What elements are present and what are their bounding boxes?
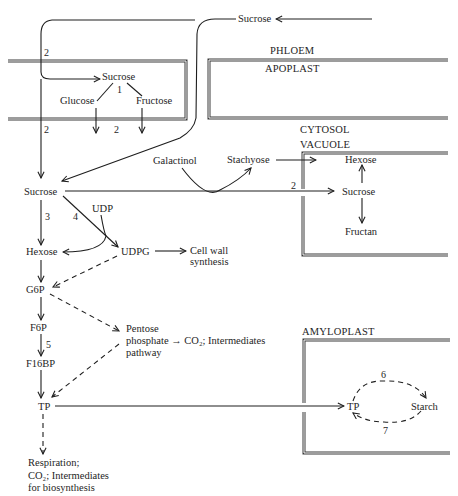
- step-number: 7: [383, 425, 388, 437]
- label-apoplast: APOPLAST: [265, 63, 320, 75]
- node-udp: UDP: [92, 203, 113, 215]
- diagram-canvas: PHLOEM APOPLAST CYTOSOL VACUOLE AMYLOPLA…: [0, 0, 458, 496]
- step-number: 2: [114, 124, 119, 136]
- node-tp-amyloplast: TP: [347, 401, 359, 413]
- node-glucose: Glucose: [60, 95, 94, 107]
- node-hexose-vacuole: Hexose: [345, 154, 377, 166]
- node-pentose-line1: Pentose: [126, 323, 159, 335]
- node-starch: Starch: [411, 401, 438, 413]
- step-number: 6: [381, 369, 386, 381]
- label-vacuole: VACUOLE: [300, 139, 350, 151]
- node-tp-cytosol: TP: [38, 401, 50, 413]
- phloem-membrane-right: [209, 60, 448, 118]
- node-pentose-line3: pathway: [126, 347, 162, 359]
- node-respiration-line3: for biosynthesis: [28, 482, 95, 494]
- vacuole-membrane: [303, 153, 448, 255]
- node-respiration-line1: Respiration;: [28, 457, 79, 469]
- step-number: 2: [291, 180, 296, 192]
- node-sucrose-vacuole: Sucrose: [342, 186, 375, 198]
- node-galactinol: Galactinol: [153, 155, 197, 167]
- node-f16bp: F16BP: [26, 358, 55, 370]
- node-sucrose-apoplast: Sucrose: [102, 71, 135, 83]
- step-number: 2: [44, 124, 49, 136]
- node-respiration-line2: CO₂; Intermediates: [28, 470, 109, 482]
- step-number: 3: [45, 211, 50, 223]
- node-hexose-cytosol: Hexose: [26, 246, 58, 258]
- node-sucrose-cytosol: Sucrose: [24, 186, 57, 198]
- node-cell-wall-line2: synthesis: [190, 256, 229, 268]
- node-fructose: Fructose: [136, 95, 172, 107]
- label-cytosol: CYTOSOL: [300, 124, 350, 136]
- step-number: 2: [44, 47, 49, 59]
- step-number: 4: [73, 211, 78, 223]
- node-f6p: F6P: [30, 322, 47, 334]
- label-phloem: PHLOEM: [270, 45, 314, 57]
- amyloplast-membrane: [304, 340, 450, 453]
- phloem-membrane-left: [8, 61, 186, 119]
- node-sucrose-phloem: Sucrose: [238, 13, 271, 25]
- node-fructan: Fructan: [345, 226, 377, 238]
- step-number: 5: [46, 339, 51, 351]
- node-stachyose: Stachyose: [227, 154, 270, 166]
- diagram-arrows: [0, 0, 458, 496]
- node-pentose-line2: phosphate → CO₂; Intermediates: [126, 335, 265, 347]
- step-number: 1: [117, 84, 122, 96]
- label-amyloplast: AMYLOPLAST: [302, 326, 375, 338]
- node-g6p: G6P: [26, 284, 45, 296]
- node-udpg: UDPG: [121, 246, 150, 258]
